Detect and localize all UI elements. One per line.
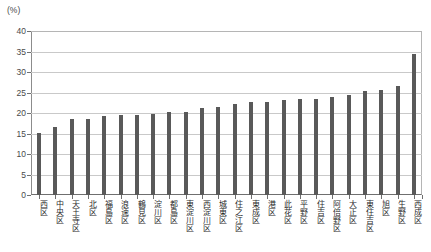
bar-slot	[389, 31, 405, 195]
x-axis-tick-mark	[169, 195, 170, 199]
bar[interactable]	[396, 86, 400, 195]
x-axis-tick-mark	[284, 195, 285, 199]
bar[interactable]	[330, 97, 334, 195]
bar[interactable]	[167, 112, 171, 195]
bar[interactable]	[200, 108, 204, 195]
bar-slot	[373, 31, 389, 195]
y-axis-tick-label: 40	[0, 26, 26, 36]
bar-slot	[80, 31, 96, 195]
bar[interactable]	[298, 99, 302, 195]
x-axis-label: 東淀川区	[178, 200, 194, 250]
x-axis-tick-mark	[251, 195, 252, 199]
bar-slot	[31, 31, 47, 195]
x-axis-tick-mark	[72, 195, 73, 199]
bar[interactable]	[184, 112, 188, 195]
bar-slot	[64, 31, 80, 195]
bar-slot	[292, 31, 308, 195]
bar[interactable]	[70, 119, 74, 195]
bar-slot	[145, 31, 161, 195]
x-axis-label-text: 浪速区	[112, 200, 128, 224]
y-axis-tick-label: 15	[0, 129, 26, 139]
bar[interactable]	[265, 102, 269, 195]
bar[interactable]	[102, 116, 106, 195]
y-axis-tick-label: 25	[0, 88, 26, 98]
y-axis-tick-label: 30	[0, 67, 26, 77]
x-axis-label: 北区	[80, 200, 96, 250]
bar[interactable]	[347, 95, 351, 195]
x-axis-label: 鶴見区	[129, 200, 145, 250]
x-axis-label: 旭区	[373, 200, 389, 250]
x-axis-labels: 西区中央区天王寺区北区福島区浪速区鶴見区淀川区都島区東淀川区西淀川区城東区住之江…	[31, 200, 422, 252]
x-axis-label: 福島区	[96, 200, 112, 250]
y-axis-tick-label: 35	[0, 47, 26, 57]
x-axis-tick-mark	[218, 195, 219, 199]
bar[interactable]	[37, 133, 41, 195]
x-axis-label-text: 平野区	[292, 200, 308, 224]
x-axis-label: 浪速区	[112, 200, 128, 250]
y-axis-unit-label: (%)	[7, 5, 20, 15]
bar-slot	[259, 31, 275, 195]
x-axis-label: 住吉区	[308, 200, 324, 250]
x-axis-tick-mark	[88, 195, 89, 199]
bar[interactable]	[53, 127, 57, 195]
x-axis-label-text: 東住吉区	[357, 200, 373, 232]
x-axis-label-text: 淀川区	[145, 200, 161, 224]
x-axis-label-text: 住之江区	[227, 200, 243, 232]
bar-slot	[324, 31, 340, 195]
bar-slot	[308, 31, 324, 195]
y-axis-tick-label: 20	[0, 108, 26, 118]
bar[interactable]	[119, 115, 123, 195]
bar-slot	[210, 31, 226, 195]
bar[interactable]	[314, 99, 318, 195]
x-axis-tick-mark	[55, 195, 56, 199]
bar[interactable]	[412, 54, 416, 195]
bar-slot	[227, 31, 243, 195]
bar-chart: (%) 0510152025303540 西区中央区天王寺区北区福島区浪速区鶴見…	[0, 0, 431, 252]
bar-slot	[406, 31, 422, 195]
x-axis-tick-mark	[365, 195, 366, 199]
x-axis-label-text: 城東区	[210, 200, 226, 224]
x-axis-tick-mark	[422, 195, 423, 199]
x-axis-label: 淀川区	[145, 200, 161, 250]
bar[interactable]	[216, 107, 220, 195]
x-axis-label-text: 旭区	[373, 200, 389, 216]
x-axis-label-text: 住吉区	[308, 200, 324, 224]
y-axis-tick-label: 5	[0, 170, 26, 180]
bar[interactable]	[135, 115, 139, 195]
x-axis-label: 中央区	[47, 200, 63, 250]
x-axis-label: 西成区	[406, 200, 422, 250]
bar[interactable]	[86, 119, 90, 195]
x-axis-tick-mark	[39, 195, 40, 199]
x-axis-label: 港区	[259, 200, 275, 250]
bar[interactable]	[282, 100, 286, 195]
bars-layer	[31, 31, 422, 195]
x-axis-label: 城東区	[210, 200, 226, 250]
x-axis-tick-mark	[300, 195, 301, 199]
bar[interactable]	[379, 90, 383, 195]
x-axis-label-text: 阿倍野区	[324, 200, 340, 232]
x-axis-label-text: 福島区	[96, 200, 112, 224]
x-axis-label: 平野区	[292, 200, 308, 250]
x-axis-tick-mark	[414, 195, 415, 199]
bar-slot	[161, 31, 177, 195]
bar[interactable]	[151, 114, 155, 195]
x-axis-label-text: 西淀川区	[194, 200, 210, 232]
x-axis-tick-mark	[104, 195, 105, 199]
x-axis-tick-mark	[235, 195, 236, 199]
x-axis-label-text: 大正区	[341, 200, 357, 224]
x-axis-label: 阿倍野区	[324, 200, 340, 250]
x-axis-tick-mark	[381, 195, 382, 199]
x-axis-label-text: 都島区	[161, 200, 177, 224]
x-axis-label-text: 東成区	[243, 200, 259, 224]
x-axis-label-text: 此花区	[275, 200, 291, 224]
bar[interactable]	[249, 102, 253, 195]
bar-slot	[112, 31, 128, 195]
x-axis-label: 東住吉区	[357, 200, 373, 250]
bar[interactable]	[363, 91, 367, 195]
y-axis-tick-label: 10	[0, 149, 26, 159]
x-axis-tick-mark	[121, 195, 122, 199]
x-axis-label: 生野区	[389, 200, 405, 250]
x-axis-label: 東成区	[243, 200, 259, 250]
bar[interactable]	[233, 104, 237, 195]
x-axis-label-text: 西区	[31, 200, 47, 216]
